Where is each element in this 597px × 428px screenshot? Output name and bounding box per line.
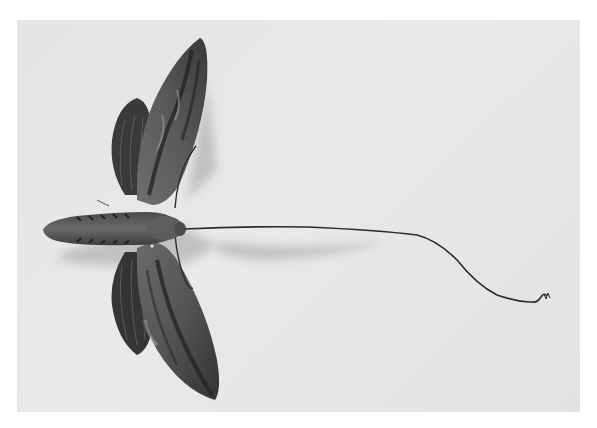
- moth-photograph: [17, 20, 580, 412]
- lower-forewing: [137, 242, 219, 400]
- moth-head: [174, 222, 186, 236]
- proboscis: [185, 227, 547, 302]
- moth-illustration: [17, 20, 580, 412]
